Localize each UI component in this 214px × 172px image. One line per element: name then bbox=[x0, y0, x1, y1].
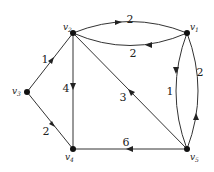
arrow-icon bbox=[173, 67, 179, 74]
arrow-icon bbox=[145, 42, 152, 48]
weight-v5-v2: 3 bbox=[120, 91, 127, 104]
node-label-v1: v1 bbox=[190, 22, 199, 33]
arrow-icon bbox=[48, 57, 54, 64]
edge-v1-v2 bbox=[73, 33, 187, 46]
node-label-v3: v3 bbox=[12, 86, 21, 97]
arrow-icon bbox=[70, 83, 76, 90]
arrow-icon bbox=[49, 121, 55, 127]
edge-v5-v1 bbox=[187, 33, 198, 149]
weight-v3-v4: 2 bbox=[43, 125, 50, 138]
weight-v1-v2: 2 bbox=[130, 47, 137, 60]
weight-v2-v1: 2 bbox=[127, 13, 134, 26]
weight-v1-v5: 1 bbox=[167, 85, 174, 98]
node-label-v5: v5 bbox=[190, 152, 199, 163]
weight-v5-v1: 2 bbox=[197, 66, 204, 79]
edge-v1-v5 bbox=[176, 33, 187, 149]
arrow-icon bbox=[193, 113, 199, 120]
weight-v2-v4: 4 bbox=[63, 82, 70, 95]
edge-v3-v4 bbox=[27, 92, 73, 149]
weight-v5-v4: 6 bbox=[123, 136, 130, 149]
arrow-icon bbox=[115, 20, 122, 25]
node-v3 bbox=[24, 89, 30, 95]
node-label-v2: v2 bbox=[63, 22, 72, 33]
graph-diagram: 2 2 1 4 3 2 6 1 2 v1 v2 v3 v4 v5 bbox=[0, 0, 214, 172]
weight-v3-v2: 1 bbox=[42, 53, 49, 66]
node-v4 bbox=[70, 146, 76, 152]
node-label-v4: v4 bbox=[65, 152, 74, 163]
